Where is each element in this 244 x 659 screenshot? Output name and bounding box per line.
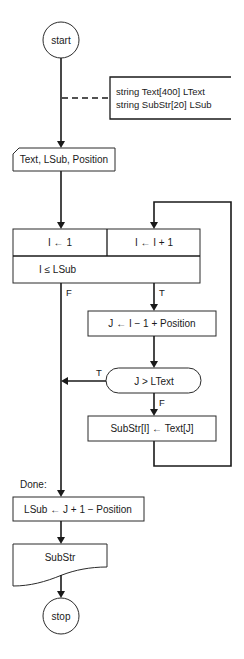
start-label: start (51, 35, 71, 46)
arrow-head (57, 490, 65, 497)
loop-increment-label: I ← I + 1 (135, 237, 174, 248)
arrow-head (61, 377, 68, 385)
arrow-head (57, 141, 65, 148)
output-label: SubStr (45, 552, 76, 563)
declaration-annotation (110, 77, 231, 119)
decision-label: J > LText (134, 376, 174, 387)
output-document (13, 544, 107, 586)
arrow-head (57, 537, 65, 544)
declaration-line-2: string SubStr[20] LSub (116, 99, 212, 110)
loop-init-label: I ← 1 (48, 237, 72, 248)
decision-false-label: F (159, 397, 165, 408)
input-label: Text, LSub, Position (20, 154, 108, 165)
compute-lsub-label: LSub ← J + 1 − Position (24, 504, 132, 515)
stop-label: stop (52, 611, 71, 622)
arrow-head (150, 409, 158, 416)
arrow-head (150, 304, 158, 311)
arrow-head (57, 222, 65, 229)
declaration-line-1: string Text[400] LText (116, 86, 205, 97)
loop-true-label: T (159, 287, 165, 298)
decision-true-label: T (96, 367, 102, 378)
flowchart-canvas: start string Text[400] LText string SubS… (0, 0, 244, 659)
arrow-head (57, 591, 65, 598)
arrow-head (150, 361, 158, 368)
arrow-head (150, 222, 158, 229)
compute-j-label: J ← I − 1 + Position (108, 318, 195, 329)
assign-label: SubStr[I] ← Text[J] (110, 423, 193, 434)
loop-false-label: F (66, 287, 72, 298)
loop-condition-label: I ≤ LSub (39, 264, 77, 275)
done-label: Done: (20, 479, 47, 490)
